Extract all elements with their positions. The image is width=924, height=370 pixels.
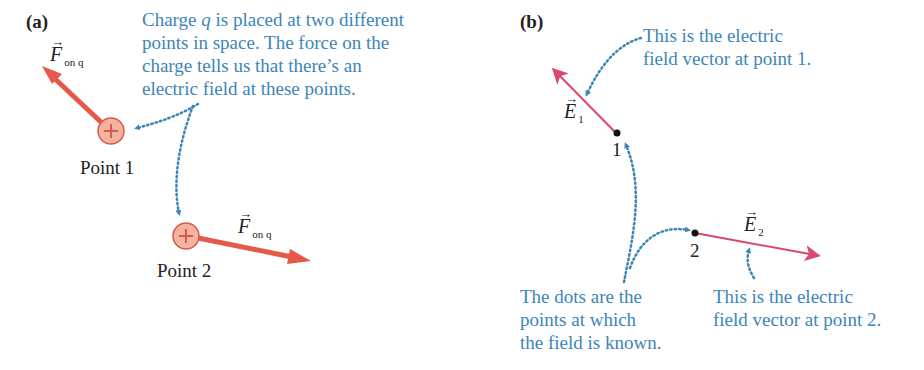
point2-label: Point 2 [157,260,211,282]
note-text: Charge [142,9,201,30]
vector-arrow-icon: → [239,206,252,222]
callout-to-point2 [176,106,193,213]
note-dots: The dots are the points at which the fie… [520,285,661,354]
charge-point1 [98,118,124,144]
panel-a-label: (a) [26,11,48,33]
force-subscript: on q [64,56,83,68]
vector-arrow-icon: → [51,34,64,50]
callout-note-e2 [748,250,754,278]
force-label-point1: →Fon q [50,43,83,68]
charge-symbol: q [201,9,211,30]
callout-note-e1 [587,38,641,94]
e1-subscript: 1 [578,113,584,125]
charge-point2 [173,223,199,249]
vector-arrow-icon: → [565,91,578,107]
field-point2-label: 2 [690,240,700,262]
force-label-point2: →Fon q [238,215,271,240]
e2-label: →E2 [744,213,764,238]
force-subscript: on q [252,228,271,240]
point1-label: Point 1 [80,157,134,179]
note-e2: This is the electric field vector at poi… [713,285,881,331]
force-arrow-point2 [198,238,311,264]
vector-arrow-icon: → [745,204,758,220]
callout-dots-to-point1 [624,145,636,282]
force-arrow-point1 [42,66,103,124]
panel-a-note: Charge q is placed at two different poin… [142,8,404,100]
field-point1-dot [614,130,621,137]
note-e1: This is the electric field vector at poi… [643,24,811,70]
field-point2-dot [692,230,699,237]
e1-label: →E1 [564,100,584,125]
panel-b-label: (b) [520,11,543,33]
callout-dots-to-point2 [630,229,688,268]
field-point1-label: 1 [612,139,622,161]
e2-subscript: 2 [758,226,764,238]
